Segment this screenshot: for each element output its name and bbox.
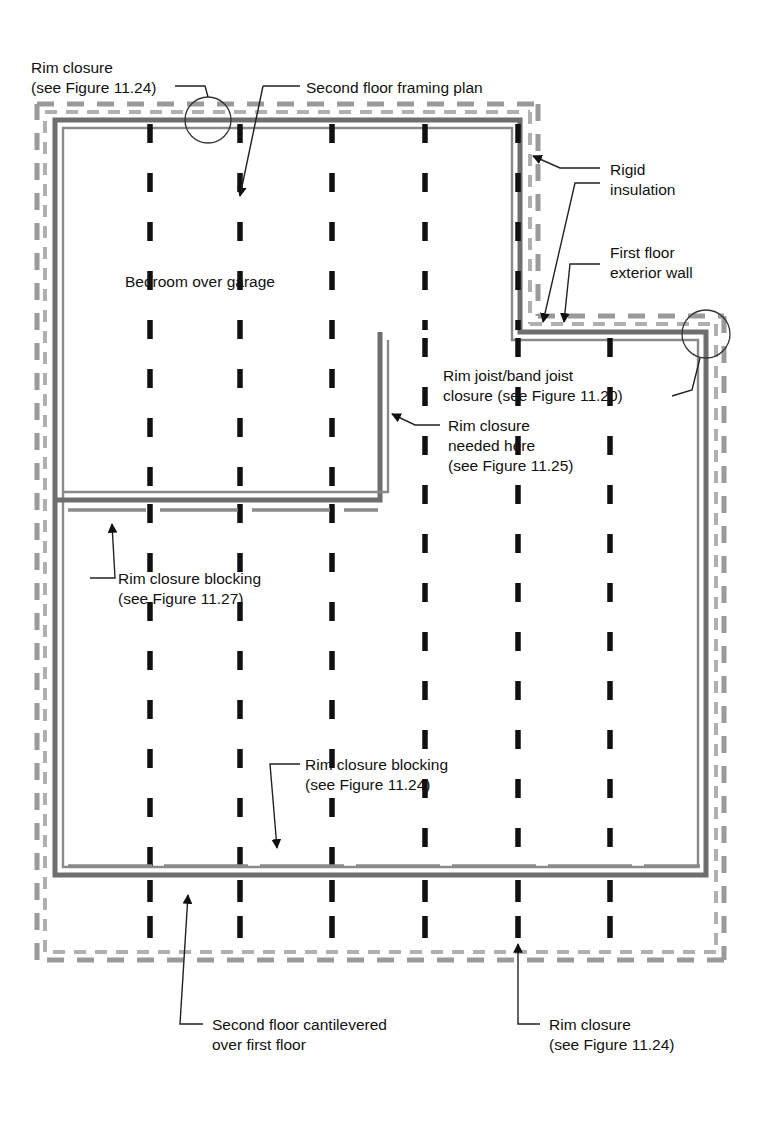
second-floor-framing-plan-figure: Rim closure (see Figure 11.24) Second fl… — [0, 0, 759, 1130]
label-rim-closure-top-left: Rim closure — [31, 59, 113, 76]
label-rim-closure-top-left-line2: (see Figure 11.24) — [31, 79, 157, 96]
label-second-floor-cantilevered: Second floor cantilevered — [212, 1016, 387, 1033]
label-rim-joist-band-joist-line2: closure (see Figure 11.20) — [443, 387, 623, 404]
label-second-floor-framing-plan: Second floor framing plan — [306, 79, 483, 96]
label-rigid-insulation-line2: insulation — [610, 181, 676, 198]
label-bedroom-over-garage: Bedroom over garage — [125, 273, 275, 290]
label-rim-closure-blocking-left-line2: (see Figure 11.27) — [118, 590, 244, 607]
label-rim-closure-bottom-right: Rim closure — [549, 1016, 631, 1033]
label-rim-closure-blocking-mid-line2: (see Figure 11.24) — [305, 776, 431, 793]
label-rim-closure-needed-here-line3: (see Figure 11.25) — [448, 457, 574, 474]
label-rim-closure-bottom-right-line2: (see Figure 11.24) — [549, 1036, 675, 1053]
label-first-floor-exterior-wall-line2: exterior wall — [610, 264, 693, 281]
label-first-floor-exterior-wall: First floor — [610, 244, 675, 261]
label-rigid-insulation: Rigid — [610, 161, 645, 178]
label-rim-closure-blocking-left: Rim closure blocking — [118, 570, 261, 587]
label-rim-closure-blocking-mid: Rim closure blocking — [305, 756, 448, 773]
label-rim-closure-needed-here-line2: needed here — [448, 437, 535, 454]
label-rim-closure-needed-here: Rim closure — [448, 417, 530, 434]
label-rim-joist-band-joist: Rim joist/band joist — [443, 367, 574, 384]
label-second-floor-cantilevered-line2: over first floor — [212, 1036, 306, 1053]
